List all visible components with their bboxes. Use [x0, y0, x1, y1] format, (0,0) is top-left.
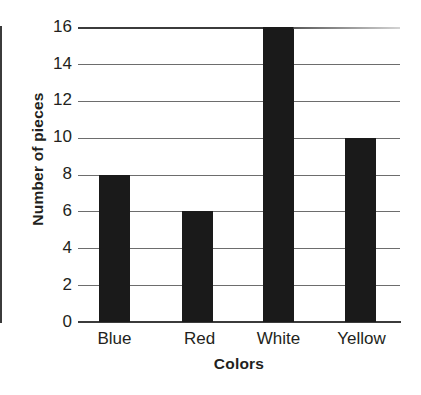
y-tick-label-14: 14: [32, 55, 72, 72]
y-axis-tick-labels: 16 14 12 10 8 6 4 2 0: [28, 27, 72, 322]
bar-red: [182, 211, 213, 322]
gridline-12: [78, 101, 400, 102]
y-tick-label-4: 4: [32, 239, 72, 256]
bar-yellow: [345, 138, 376, 322]
bar-chart: Number of pieces 16 14 12 10 8 6 4 2 0 B…: [0, 0, 421, 395]
y-axis-line: [0, 26, 2, 323]
y-tick-label-16: 16: [32, 18, 72, 35]
bar-blue: [99, 175, 130, 323]
y-tick-label-2: 2: [32, 276, 72, 293]
x-tick-label-white: White: [236, 329, 321, 349]
y-tick-label-10: 10: [32, 128, 72, 145]
x-tick-label-red: Red: [157, 329, 242, 349]
gridline-14: [78, 64, 400, 65]
gridline-fade-artifact: [293, 27, 400, 29]
y-tick-label-12: 12: [32, 91, 72, 108]
plot-area: [78, 27, 400, 322]
y-tick-label-0: 0: [32, 313, 72, 330]
x-axis-title: Colors: [78, 355, 400, 373]
y-tick-label-8: 8: [32, 165, 72, 182]
y-tick-label-6: 6: [32, 202, 72, 219]
x-tick-label-blue: Blue: [72, 329, 157, 349]
x-tick-label-yellow: Yellow: [319, 329, 404, 349]
bar-white: [263, 27, 294, 322]
